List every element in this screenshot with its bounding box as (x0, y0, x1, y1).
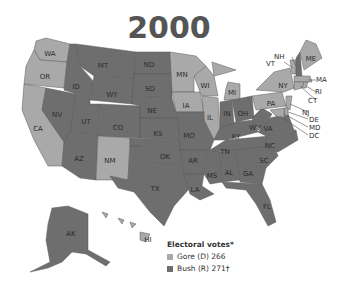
label-il: IL (207, 114, 213, 122)
label-wa: WA (44, 50, 55, 58)
label-sc: SC (259, 157, 268, 165)
label-ky: KY (232, 133, 241, 141)
state-wy[interactable] (90, 76, 134, 104)
label-wi: WI (201, 82, 210, 90)
legend-label-gore: Gore (D) 266 (177, 252, 226, 261)
label-nv: NV (52, 111, 62, 119)
label-mi: MI (228, 89, 236, 97)
label-ri: RI (315, 88, 322, 96)
label-ks: KS (153, 130, 162, 138)
legend-item-gore: Gore (D) 266 (167, 252, 234, 261)
label-az: AZ (74, 155, 84, 163)
label-mo: MO (183, 132, 195, 140)
label-dc: DC (309, 132, 319, 140)
label-id: ID (72, 83, 79, 91)
label-de: DE (309, 116, 319, 124)
state-co[interactable] (98, 104, 140, 138)
label-me: ME (306, 55, 316, 63)
label-ar: AR (188, 157, 198, 165)
label-co: CO (113, 124, 123, 132)
state-hi[interactable] (102, 212, 150, 242)
bush-swatch (167, 266, 173, 272)
label-tn: TN (220, 148, 230, 156)
label-nh: NH (274, 53, 285, 61)
label-fl: FL (263, 203, 271, 211)
label-nd: ND (144, 61, 155, 69)
label-wy: WY (106, 91, 117, 99)
label-or: OR (40, 73, 50, 81)
label-ga: GA (243, 170, 253, 178)
label-ia: IA (183, 102, 190, 110)
legend: Electoral votes* Gore (D) 266 Bush (R) 2… (167, 240, 234, 276)
label-ut: UT (81, 118, 90, 126)
legend-heading: Electoral votes* (167, 240, 234, 249)
state-ny[interactable] (256, 68, 294, 92)
legend-label-bush: Bush (R) 271† (177, 264, 229, 273)
label-ca: CA (33, 125, 43, 133)
gore-swatch (167, 254, 173, 260)
label-la: LA (191, 186, 200, 194)
label-al: AL (225, 169, 234, 177)
label-hi: HI (144, 236, 151, 244)
label-sd: SD (145, 85, 155, 93)
label-ne: NE (147, 107, 157, 115)
label-oh: OH (238, 110, 249, 118)
label-vt: VT (266, 60, 275, 68)
legend-item-bush: Bush (R) 271† (167, 264, 234, 273)
label-nm: NM (104, 157, 115, 165)
state-ma[interactable] (294, 76, 312, 82)
state-oh[interactable] (232, 96, 254, 122)
label-pa: PA (267, 100, 276, 108)
state-md[interactable] (270, 108, 284, 118)
label-ct: CT (308, 97, 317, 105)
label-mt: MT (98, 62, 108, 70)
state-ak[interactable] (30, 206, 110, 272)
label-va: VA (263, 125, 272, 133)
label-md: MD (309, 124, 320, 132)
label-ak: AK (66, 230, 75, 238)
label-ms: MS (207, 172, 217, 180)
label-wv: WV (249, 124, 261, 132)
label-ny: NY (278, 82, 288, 90)
label-ok: OK (160, 153, 170, 161)
label-ma: MA (316, 76, 327, 84)
label-nc: NC (265, 142, 275, 150)
label-mn: MN (176, 71, 187, 79)
label-in: IN (223, 110, 230, 118)
label-tx: TX (150, 185, 159, 193)
